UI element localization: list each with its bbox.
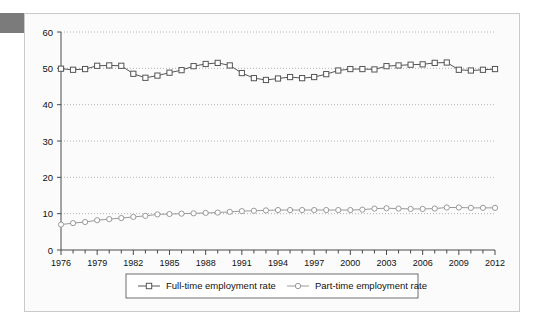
data-point-marker	[372, 67, 377, 72]
x-tick-label: 1997	[304, 258, 324, 268]
screenshot-root: 0102030405060 19761979198219851988199119…	[0, 0, 552, 328]
data-point-marker	[336, 68, 341, 73]
data-point-marker	[444, 60, 449, 65]
data-point-marker	[131, 71, 136, 76]
data-point-marker	[227, 209, 232, 214]
data-point-marker	[95, 63, 100, 68]
data-point-marker	[227, 63, 232, 68]
chart-legend: Full-time employment rate Part-time empl…	[126, 274, 427, 298]
data-point-marker	[70, 67, 75, 72]
data-point-marker	[456, 67, 461, 72]
data-point-marker	[432, 60, 437, 65]
data-point-marker	[263, 208, 268, 213]
data-point-marker	[336, 207, 341, 212]
data-point-marker	[70, 221, 75, 226]
data-point-marker	[58, 66, 63, 71]
data-point-marker	[143, 75, 148, 80]
data-point-marker	[480, 205, 485, 210]
data-point-marker	[492, 205, 497, 210]
data-point-marker	[312, 207, 317, 212]
data-point-marker	[287, 74, 292, 79]
data-point-marker	[119, 215, 124, 220]
data-point-marker	[408, 206, 413, 211]
data-point-marker	[191, 211, 196, 216]
data-point-marker	[384, 64, 389, 69]
y-tick-label: 40	[42, 99, 53, 110]
legend-label: Full-time employment rate	[166, 280, 276, 291]
data-point-marker	[107, 63, 112, 68]
data-point-marker	[95, 218, 100, 223]
data-point-marker	[408, 62, 413, 67]
data-point-marker	[468, 205, 473, 210]
decorative-corner-tab	[0, 13, 24, 33]
x-tick-label: 2012	[485, 258, 505, 268]
data-point-marker	[480, 67, 485, 72]
data-point-marker	[107, 217, 112, 222]
chart-frame: 0102030405060 19761979198219851988199119…	[24, 13, 520, 312]
x-tick-label: 1994	[268, 258, 288, 268]
data-point-marker	[295, 283, 300, 288]
data-point-marker	[287, 207, 292, 212]
data-point-marker	[179, 211, 184, 216]
data-point-marker	[324, 72, 329, 77]
data-point-marker	[179, 68, 184, 73]
data-point-marker	[251, 76, 256, 81]
data-point-marker	[239, 209, 244, 214]
data-point-marker	[360, 207, 365, 212]
data-point-marker	[215, 60, 220, 65]
y-tick-label: 50	[42, 63, 53, 74]
data-point-marker	[348, 207, 353, 212]
legend-label: Part-time employment rate	[315, 280, 427, 291]
data-point-marker	[300, 207, 305, 212]
data-point-marker	[300, 76, 305, 81]
data-point-marker	[396, 206, 401, 211]
data-point-marker	[372, 206, 377, 211]
data-point-marker	[203, 210, 208, 215]
x-tick-label: 1988	[196, 258, 216, 268]
x-tick-label: 2000	[340, 258, 360, 268]
employment-rate-line-chart: 0102030405060 19761979198219851988199119…	[25, 14, 519, 311]
x-tick-label: 2009	[449, 258, 469, 268]
data-point-marker	[420, 62, 425, 67]
y-tick-label: 60	[42, 27, 53, 38]
data-point-marker	[167, 211, 172, 216]
x-tick-label: 1982	[123, 258, 143, 268]
data-point-marker	[119, 63, 124, 68]
data-point-marker	[155, 212, 160, 217]
data-point-marker	[251, 208, 256, 213]
y-tick-label: 30	[42, 136, 53, 147]
data-point-marker	[324, 207, 329, 212]
x-tick-label: 2006	[413, 258, 433, 268]
data-point-marker	[468, 68, 473, 73]
data-point-marker	[275, 76, 280, 81]
y-tick-label: 20	[42, 172, 53, 183]
data-point-marker	[215, 210, 220, 215]
x-tick-label: 1985	[159, 258, 179, 268]
data-point-marker	[203, 61, 208, 66]
data-point-marker	[360, 66, 365, 71]
data-point-marker	[167, 70, 172, 75]
data-point-marker	[131, 214, 136, 219]
data-point-marker	[396, 63, 401, 68]
y-tick-label: 10	[42, 208, 53, 219]
data-point-marker	[275, 207, 280, 212]
data-point-marker	[143, 213, 148, 218]
data-point-marker	[239, 70, 244, 75]
data-point-marker	[263, 77, 268, 82]
data-point-marker	[384, 206, 389, 211]
x-tick-label: 2003	[376, 258, 396, 268]
x-tick-label: 1979	[87, 258, 107, 268]
data-point-marker	[83, 66, 88, 71]
data-point-marker	[432, 206, 437, 211]
data-point-marker	[146, 283, 151, 288]
data-point-marker	[155, 73, 160, 78]
x-tick-label: 1976	[51, 258, 71, 268]
data-point-marker	[456, 205, 461, 210]
data-point-marker	[444, 205, 449, 210]
data-point-marker	[191, 64, 196, 69]
x-tick-label: 1991	[232, 258, 252, 268]
data-point-marker	[312, 74, 317, 79]
data-point-marker	[83, 219, 88, 224]
data-point-marker	[492, 66, 497, 71]
data-point-marker	[420, 206, 425, 211]
